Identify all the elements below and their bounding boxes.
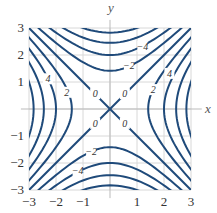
contour-label: 0 <box>122 88 127 99</box>
y-tick-label: −3 <box>10 182 24 197</box>
contour-chart: 0000−2−42442−2−4−3−2−1123321−1−2−3xy <box>0 0 217 213</box>
y-tick-label: −2 <box>10 155 24 170</box>
contour-label: −4 <box>72 165 84 176</box>
x-tick-label: −3 <box>22 194 36 209</box>
y-tick-label: 1 <box>18 74 25 89</box>
contour-label: 4 <box>45 73 50 84</box>
plot-area: 0000−2−42442−2−4−3−2−1123321−1−2−3xy <box>0 0 217 213</box>
x-axis-label: x <box>204 101 211 116</box>
contour-label: 2 <box>151 84 156 95</box>
x-tick-label: 2 <box>161 194 168 209</box>
contour-label: −2 <box>85 146 97 157</box>
x-tick-label: 1 <box>134 194 141 209</box>
x-tick-label: 3 <box>188 194 195 209</box>
contour-label: 0 <box>93 118 98 129</box>
contour-label: 4 <box>167 68 172 79</box>
y-tick-label: 2 <box>18 47 25 62</box>
contour-label: 2 <box>64 87 69 98</box>
y-axis-label: y <box>106 0 114 15</box>
contour-label: 0 <box>122 118 127 129</box>
contour-label: −2 <box>123 60 135 71</box>
contour-lines <box>0 0 217 213</box>
y-tick-label: −1 <box>10 128 24 143</box>
x-tick-label: −1 <box>76 194 90 209</box>
contour-label: −4 <box>137 41 149 52</box>
x-tick-label: −2 <box>49 194 63 209</box>
contour-label: 0 <box>93 88 98 99</box>
y-tick-label: 3 <box>18 20 25 35</box>
